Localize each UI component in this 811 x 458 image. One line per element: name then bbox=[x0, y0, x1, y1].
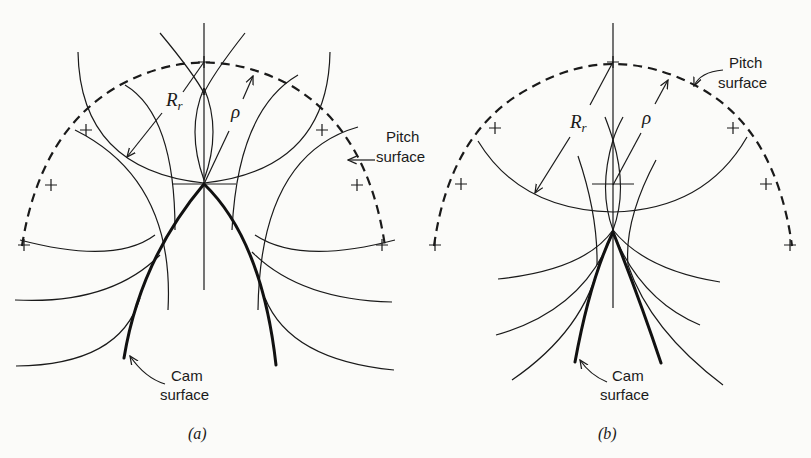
cam-surface-label-b-line2: surface bbox=[600, 386, 649, 403]
pitch-surface-label-a-line1: Pitch bbox=[386, 128, 419, 145]
rho-label-b: ρ bbox=[641, 107, 651, 128]
caption-a: (a) bbox=[188, 425, 207, 443]
caption-b: (b) bbox=[598, 425, 617, 443]
cam-surface-label-a-line2: surface bbox=[160, 386, 209, 403]
cam-surface-curve-b bbox=[575, 232, 661, 363]
pitch-point-markers-a bbox=[18, 56, 388, 251]
panel-a-diagram: Rr ρ Pitch surface Cam surface (a) bbox=[15, 23, 425, 443]
pitch-surface-label-b-line1: Pitch bbox=[729, 54, 762, 71]
pitch-surface-label-b-line2: surface bbox=[718, 74, 767, 91]
cam-leader-b bbox=[580, 360, 607, 382]
rr-label-a: Rr bbox=[165, 89, 184, 113]
cam-surface-curve-a bbox=[124, 184, 276, 365]
panel-b-diagram: Rr ρ Pitch surface Cam surface (b) bbox=[429, 23, 796, 443]
roller-circle-arcs-a bbox=[15, 33, 395, 370]
cam-leader-a bbox=[130, 356, 165, 384]
rho-leader-a bbox=[204, 131, 229, 184]
rr-leader-b bbox=[590, 62, 613, 105]
cam-surface-label-a-line1: Cam bbox=[171, 367, 203, 384]
cam-surface-label-b-line1: Cam bbox=[612, 367, 644, 384]
rr-arrow-b bbox=[535, 137, 570, 193]
rho-arrow-b bbox=[655, 80, 668, 104]
rho-label-a: ρ bbox=[230, 101, 240, 122]
rr-label-b: Rr bbox=[569, 111, 588, 135]
pitch-surface-label-a-line2: surface bbox=[376, 148, 425, 165]
rr-arrow-a bbox=[127, 113, 162, 157]
rho-arrow-a bbox=[243, 76, 253, 99]
